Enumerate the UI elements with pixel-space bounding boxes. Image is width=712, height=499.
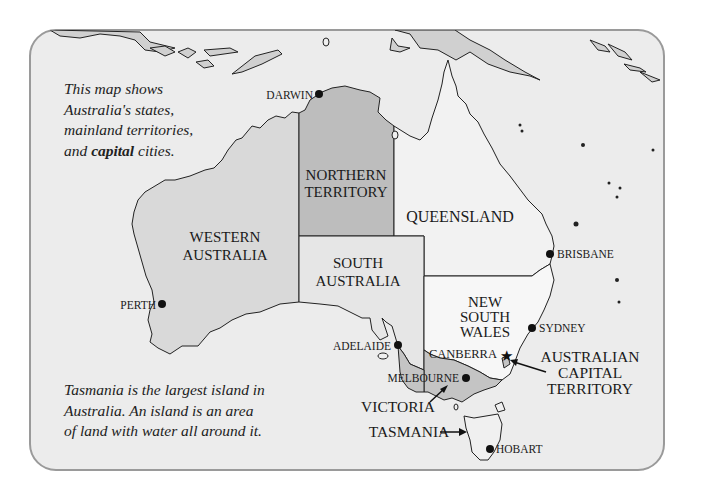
label-northern-territory-2: TERRITORY: [304, 184, 387, 200]
label-south-australia: SOUTH: [333, 255, 383, 271]
city-label-melbourne: MELBOURNE: [387, 372, 459, 384]
city-dot-brisbane: [546, 250, 554, 258]
label-act: AUSTRALIAN: [540, 348, 639, 365]
city-label-hobart: HOBART: [496, 443, 543, 455]
city-label-perth: PERTH: [120, 299, 156, 311]
label-western-australia-2: AUSTRALIA: [183, 247, 268, 263]
intro-note-line-4: and capital cities.: [64, 141, 193, 162]
intro-note-line-1: This map shows: [64, 79, 193, 100]
label-new-south-wales: NEW: [468, 294, 503, 310]
label-act-3: TERRITORY: [547, 380, 633, 397]
city-label-sydney: SYDNEY: [539, 322, 586, 334]
city-dot-adelaide: [394, 341, 402, 349]
label-act-2: CAPITAL: [558, 364, 622, 381]
city-label-brisbane: BRISBANE: [557, 248, 614, 260]
tasmania-note-line-3: of land with water all around it.: [64, 421, 265, 442]
tasmania-note-line-1: Tasmania is the largest island in: [64, 380, 265, 401]
island: [323, 38, 329, 46]
city-dot-perth: [158, 300, 166, 308]
label-queensland: QUEENSLAND: [406, 208, 514, 225]
city-label-adelaide: ADELAIDE: [333, 340, 391, 352]
island: [392, 131, 398, 139]
tasmania-note-line-2: Australia. An island is an area: [64, 401, 265, 422]
intro-note: This map shows Australia's states, mainl…: [64, 79, 193, 161]
label-tasmania: TASMANIA: [369, 423, 450, 440]
island: [454, 404, 458, 410]
label-new-south-wales-2: SOUTH: [460, 309, 510, 325]
city-dot-melbourne: [462, 374, 470, 382]
intro-note-text: and: [64, 142, 91, 159]
intro-note-text: cities.: [134, 142, 174, 159]
city-label-darwin: DARWIN: [266, 89, 313, 101]
city-dot-sydney: [528, 324, 536, 332]
island: [378, 353, 388, 359]
label-victoria: VICTORIA: [361, 398, 436, 415]
label-south-australia-2: AUSTRALIA: [316, 273, 401, 289]
city-label-canberra: CANBERRA: [429, 347, 497, 361]
intro-note-line-2: Australia's states,: [64, 100, 193, 121]
star-icon-canberra: ★: [500, 348, 513, 364]
intro-note-line-3: mainland territories,: [64, 120, 193, 141]
label-northern-territory: NORTHERN: [306, 167, 387, 183]
intro-note-bold-capital: capital: [91, 142, 134, 159]
label-new-south-wales-3: WALES: [460, 324, 510, 340]
city-dot-darwin: [315, 90, 323, 98]
tasmania-note: Tasmania is the largest island in Austra…: [64, 380, 265, 442]
city-dot-hobart: [486, 445, 494, 453]
label-western-australia: WESTERN: [190, 229, 261, 245]
